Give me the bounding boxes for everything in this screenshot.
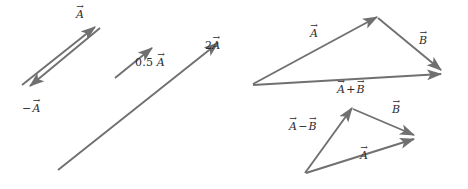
vector-arrow-tri1-b: [378, 18, 441, 70]
label-tri1-vector-sum: A+B: [337, 84, 365, 95]
label-vector-two-a: 2A: [205, 40, 220, 51]
vector-diagram-figure: A −A 0.5 A 2A A B A+B A−B B A: [0, 0, 468, 189]
label-tri1-vector-b: B: [419, 35, 427, 46]
label-tri2-vector-difference: A−B: [289, 121, 317, 132]
label-vector-a: A: [76, 9, 84, 20]
label-tri1-vector-a: A: [310, 28, 318, 39]
vector-arrow-a: [22, 27, 95, 85]
label-vector-negative-a: −A: [21, 103, 41, 114]
vector-arrow-negative-a: [30, 28, 100, 86]
vector-arrows-canvas: [0, 0, 468, 189]
label-tri2-vector-a: A: [360, 150, 368, 161]
vector-arrow-tri2-b: [353, 109, 414, 135]
label-vector-half-a: 0.5 A: [135, 57, 165, 68]
label-tri2-vector-b: B: [392, 104, 400, 115]
